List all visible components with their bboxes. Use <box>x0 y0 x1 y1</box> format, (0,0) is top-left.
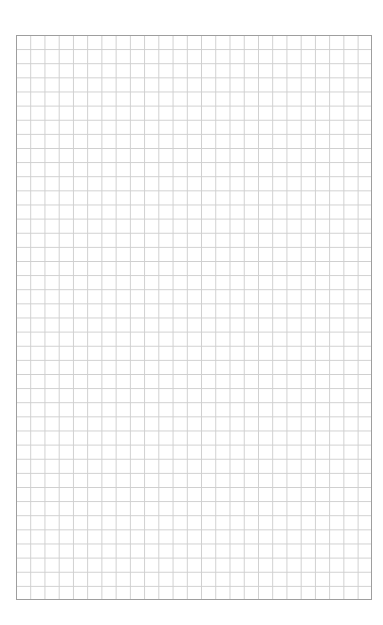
grid-paper-sheet <box>16 35 372 600</box>
